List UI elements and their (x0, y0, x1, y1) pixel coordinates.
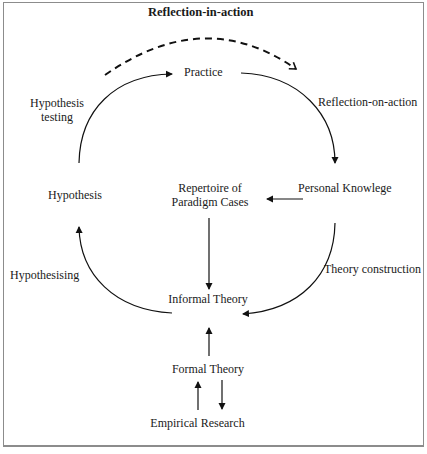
diagram-title: Reflection-in-action (148, 5, 254, 19)
node-repertoire-line2: Paradigm Cases (160, 195, 260, 209)
node-practice: Practice (184, 65, 223, 79)
node-formal-theory: Formal Theory (158, 362, 258, 376)
node-informal-theory: Informal Theory (158, 292, 258, 306)
node-repertoire-line1: Repertoire of (160, 181, 260, 195)
node-empirical-research: Empirical Research (145, 416, 250, 430)
label-reflection-on-action: Reflection-on-action (318, 95, 417, 109)
hypothesis-testing-arrow (79, 74, 172, 163)
reflection-on-action-arrow (241, 73, 335, 163)
label-hypothesising: Hypothesising (10, 268, 79, 282)
label-theory-construction: Theory construction (324, 262, 421, 276)
label-hypothesis-testing-line2: testing (22, 110, 92, 124)
node-repertoire-of-paradigm-cases: Repertoire of Paradigm Cases (160, 181, 260, 209)
label-hypothesis-testing-line1: Hypothesis (22, 96, 92, 110)
label-hypothesis-testing: Hypothesis testing (22, 96, 92, 124)
node-hypothesis: Hypothesis (48, 188, 102, 202)
node-personal-knowledge: Personal Knowlege (298, 181, 392, 195)
